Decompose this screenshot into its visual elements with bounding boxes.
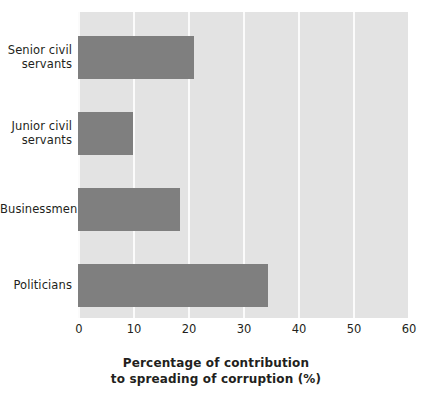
- xtick-label-40: 40: [292, 322, 307, 336]
- category-label-line2: servants: [22, 133, 72, 147]
- bar-chart: Senior civil servants Junior civil serva…: [0, 0, 432, 401]
- x-axis-caption-line1: Percentage of contribution: [0, 355, 432, 371]
- bar-politicians: [78, 264, 268, 307]
- xtick-label-60: 60: [402, 322, 417, 336]
- category-axis-labels: Senior civil servants Junior civil serva…: [0, 12, 72, 318]
- category-label-line1: Junior civil: [12, 119, 73, 133]
- xtick-label-20: 20: [182, 322, 197, 336]
- category-label-line1: Senior civil: [8, 43, 72, 57]
- bar-senior-civil-servants: [78, 36, 194, 79]
- category-label-junior-civil-servants: Junior civil servants: [0, 120, 72, 147]
- category-label-line1: Politicians: [13, 278, 72, 292]
- x-axis-caption: Percentage of contribution to spreading …: [0, 355, 432, 387]
- bar-businessmen: [78, 188, 180, 231]
- bar-junior-civil-servants: [78, 112, 133, 155]
- plot-area: [78, 12, 408, 318]
- xtick-label-50: 50: [347, 322, 362, 336]
- category-label-line1: Businessmen: [0, 202, 77, 216]
- xtick-label-30: 30: [237, 322, 252, 336]
- x-axis-caption-line2: to spreading of corruption (%): [0, 371, 432, 387]
- category-label-politicians: Politicians: [0, 279, 72, 293]
- gridline-40: [298, 12, 300, 318]
- gridline-50: [353, 12, 355, 318]
- xtick-label-10: 10: [127, 322, 142, 336]
- category-label-line2: servants: [22, 57, 72, 71]
- xtick-label-0: 0: [75, 322, 82, 336]
- category-label-senior-civil-servants: Senior civil servants: [0, 44, 72, 71]
- category-label-businessmen: Businessmen: [0, 203, 72, 217]
